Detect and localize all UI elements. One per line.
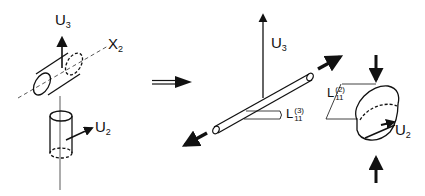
vertical-cylinder <box>50 96 92 190</box>
u3-label-right: U3 <box>271 35 287 53</box>
rod-arrow-right <box>318 57 340 69</box>
x2-label: X2 <box>108 36 123 54</box>
l11-2-label: L(2)11 <box>327 86 345 103</box>
u2-arrow <box>66 128 92 140</box>
implies-arrow <box>152 76 192 88</box>
u2-label-left: U2 <box>95 119 111 137</box>
rod-end-front <box>211 125 220 135</box>
l11-3-label: L(3)11 <box>286 107 304 124</box>
rod-arrow-left <box>185 133 207 145</box>
u2-label-right: U2 <box>395 122 411 140</box>
rod-end-back <box>305 72 314 82</box>
flat-disc <box>326 55 399 183</box>
u3-label-left: U3 <box>55 12 71 30</box>
thin-rod <box>185 15 340 145</box>
horizontal-cylinder <box>18 38 108 98</box>
u2-arrow-disc <box>381 122 394 125</box>
x2-axis-line <box>18 46 108 98</box>
